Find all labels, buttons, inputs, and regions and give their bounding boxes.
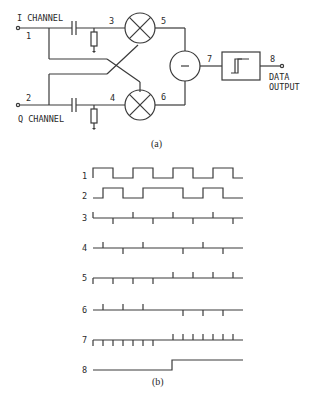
waveform-diagram: 1 2 3 4 5 6 7 8 [82,168,243,388]
quadrature-detector-figure: I CHANNEL 1 2 Q CHANNEL 3 4 5 6 7 8 DATA… [0,0,319,397]
wave-label-6: 6 [82,305,87,315]
ground-q-icon [92,128,96,130]
circuit-diagram: I CHANNEL 1 2 Q CHANNEL 3 4 5 6 7 8 DATA… [16,13,299,150]
caption-b: (b) [152,376,164,388]
waveform-5 [93,272,243,284]
node-label-7: 7 [207,54,212,64]
waveform-6 [93,304,243,316]
wave-label-7: 7 [82,335,87,345]
label-q-channel: Q CHANNEL [18,114,64,124]
waveform-4 [93,242,243,254]
node-label-1: 1 [26,31,31,41]
hysteresis-comparator-icon [222,52,260,80]
node-label-4: 4 [110,93,115,103]
wave-label-1: 1 [82,171,87,181]
resistor-i-icon [91,32,97,46]
waveform-1 [93,168,243,178]
node-label-3: 3 [109,16,114,26]
wave-label-5: 5 [82,273,87,283]
waveform-7 [93,334,243,346]
input-terminal-q [16,103,19,106]
mixer-upper-icon [125,13,155,43]
data-output-label-1: DATA [269,72,289,82]
node-label-5: 5 [161,16,166,26]
wave-label-8: 8 [82,365,87,375]
resistor-q-icon [91,109,97,123]
wave-label-4: 4 [82,243,87,253]
node-label-2: 2 [26,93,31,103]
data-output-label-2: OUTPUT [269,82,300,92]
node-label-6: 6 [161,92,166,102]
input-terminal-i [16,26,19,29]
label-i-channel: I CHANNEL [17,13,63,23]
wave-label-2: 2 [82,191,87,201]
ground-i-icon [92,51,96,53]
caption-a: (a) [151,138,162,150]
waveform-2 [93,188,243,198]
waveform-8 [93,360,243,370]
mixer-lower-icon [125,90,155,120]
node-label-8: 8 [270,54,275,64]
wave-label-3: 3 [82,213,87,223]
output-terminal [280,64,283,67]
subtractor-icon [170,51,200,81]
waveform-3 [93,212,243,224]
